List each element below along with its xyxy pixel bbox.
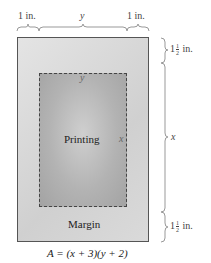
printing-label: Printing <box>64 133 99 145</box>
inner-width-label: y <box>80 72 84 83</box>
brace-right-middle <box>161 63 168 212</box>
top-right-margin-label: 1 in. <box>127 10 145 21</box>
margin-label: Margin <box>68 218 100 230</box>
inner-height-label: x <box>119 133 123 144</box>
denominator: 2 <box>176 50 179 56</box>
area-formula: A = (x + 3)(y + 2) <box>47 247 128 259</box>
top-left-margin-label: 1 in. <box>18 10 36 21</box>
brace-right-bottom <box>161 212 168 242</box>
right-top-margin-label: 112 in. <box>170 43 193 56</box>
whole-part: 1 <box>170 43 175 54</box>
top-width-label: y <box>80 10 84 21</box>
numerator: 1 <box>176 43 179 50</box>
brace-top-right <box>127 24 149 31</box>
brace-top-middle <box>39 24 127 31</box>
right-height-label: x <box>171 131 175 142</box>
unit: in. <box>183 220 193 231</box>
brace-top-left <box>17 24 39 31</box>
fraction: 12 <box>176 43 179 56</box>
numerator: 1 <box>176 220 179 227</box>
fraction: 12 <box>176 220 179 233</box>
brace-right-top <box>161 38 168 63</box>
right-bottom-margin-label: 112 in. <box>170 220 193 233</box>
unit: in. <box>183 43 193 54</box>
whole-part: 1 <box>170 220 175 231</box>
denominator: 2 <box>176 227 179 233</box>
